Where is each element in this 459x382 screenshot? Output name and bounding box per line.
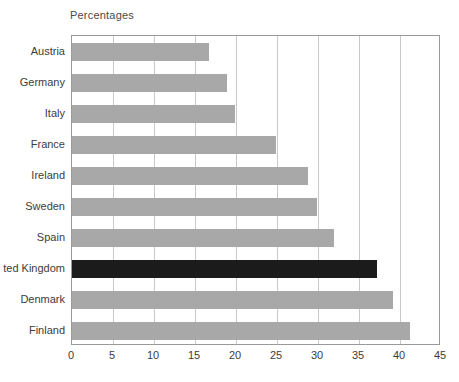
x-tick-label: 0 bbox=[68, 349, 74, 361]
x-tick-label: 5 bbox=[109, 349, 115, 361]
x-axis-tick-labels: 051015202530354045 bbox=[0, 349, 459, 373]
category-label: ted Kingdom bbox=[0, 262, 71, 274]
category-label: Sweden bbox=[0, 200, 71, 212]
bar bbox=[72, 322, 410, 340]
chart-title: Percentages bbox=[70, 9, 134, 21]
x-tick-label: 40 bbox=[393, 349, 405, 361]
bar bbox=[72, 198, 317, 216]
category-label: Spain bbox=[0, 231, 71, 243]
x-tick-label: 30 bbox=[311, 349, 323, 361]
bar bbox=[72, 167, 308, 185]
gridline bbox=[400, 36, 401, 344]
x-tick-label: 45 bbox=[434, 349, 446, 361]
bar bbox=[72, 291, 393, 309]
category-label: France bbox=[0, 138, 71, 150]
category-label: Denmark bbox=[0, 293, 71, 305]
bar bbox=[72, 105, 235, 123]
category-label: Finland bbox=[0, 324, 71, 336]
category-label: Italy bbox=[0, 107, 71, 119]
bar bbox=[72, 260, 377, 278]
plot-area bbox=[71, 35, 440, 345]
percentages-bar-chart: Percentages AustriaGermanyItalyFranceIre… bbox=[0, 0, 459, 382]
category-label: Austria bbox=[0, 45, 71, 57]
x-tick-label: 35 bbox=[352, 349, 364, 361]
category-label: Germany bbox=[0, 76, 71, 88]
category-label: Ireland bbox=[0, 169, 71, 181]
x-tick-label: 15 bbox=[188, 349, 200, 361]
x-tick-label: 20 bbox=[229, 349, 241, 361]
x-tick-label: 25 bbox=[270, 349, 282, 361]
x-tick-label: 10 bbox=[147, 349, 159, 361]
bar bbox=[72, 74, 227, 92]
bar bbox=[72, 43, 209, 61]
bar bbox=[72, 229, 334, 247]
bar bbox=[72, 136, 276, 154]
